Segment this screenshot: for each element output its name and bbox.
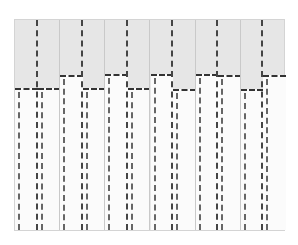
column-dash-left	[41, 92, 43, 230]
column-dash-left	[18, 92, 20, 230]
column-dash-left	[244, 93, 246, 230]
column-dash-left	[131, 92, 133, 230]
diagram-column	[241, 20, 264, 230]
diagram-column	[263, 20, 286, 230]
column-dash-left	[63, 79, 65, 230]
diagram-column	[128, 20, 151, 230]
column-dash-left	[108, 78, 110, 230]
column-dash-left	[221, 79, 223, 230]
column-dash-left	[154, 78, 156, 230]
diagram-column	[151, 20, 174, 230]
diagram-column	[15, 20, 38, 230]
column-dash-left	[199, 78, 201, 230]
column-dash-left	[266, 79, 268, 230]
diagram-column	[105, 20, 128, 230]
diagram-column	[38, 20, 61, 230]
diagram-column	[173, 20, 196, 230]
diagram-column	[83, 20, 106, 230]
diagram-column	[196, 20, 219, 230]
column-dash-left	[86, 92, 88, 230]
diagram-title	[0, 0, 298, 8]
diagram-column	[218, 20, 241, 230]
diagram-column	[60, 20, 83, 230]
diagram-panel	[14, 19, 285, 231]
column-dash-left	[176, 93, 178, 230]
